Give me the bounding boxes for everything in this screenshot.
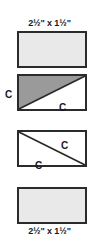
fabric-tag-block2-white-half: C — [59, 103, 66, 113]
fabric-unit-diagram: 2½" x 1½" C C C C 2½" x 1½" — [0, 0, 99, 249]
fabric-block-4-plain-light — [17, 187, 87, 224]
fabric-tag-block3-lower-left: C — [35, 161, 42, 171]
fabric-block-3-outline-triangle — [17, 130, 87, 167]
fabric-block-2-shaded-triangle — [17, 74, 87, 111]
fabric-block-1-plain-light — [17, 31, 87, 68]
outline-triangle-artwork — [19, 132, 85, 165]
fabric-tag-outside-left: C — [5, 90, 12, 100]
top-dimension-label: 2½" x 1½" — [0, 18, 99, 28]
fabric-tag-block3-upper-right: C — [61, 141, 68, 151]
diagonal-seam-line — [19, 132, 85, 165]
shaded-triangle-artwork — [19, 76, 85, 109]
bottom-dimension-label: 2½" x 1½" — [0, 226, 99, 236]
